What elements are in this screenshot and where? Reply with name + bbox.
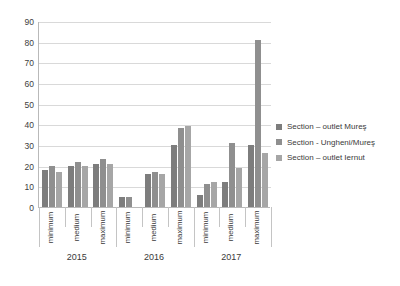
legend-label: Section – outlet Iernut (287, 153, 365, 162)
bar (159, 174, 165, 207)
bar (152, 172, 158, 207)
y-axis-tick-label: 30 (8, 142, 34, 151)
bar (68, 166, 74, 207)
y-axis-tick-label: 50 (8, 101, 34, 110)
bar (222, 182, 228, 207)
category-labels: minimummediummaximumminimummediummaximum… (38, 208, 270, 248)
bar (211, 182, 217, 207)
bar (49, 166, 55, 207)
bar (204, 184, 210, 207)
bar-chart: 0102030405060708090 minimummediummaximum… (0, 0, 400, 286)
bar-group (194, 21, 220, 207)
y-axis-tick-label: 80 (8, 39, 34, 48)
bar-group (168, 21, 194, 207)
legend-item[interactable]: Section – outlet Mureş (276, 122, 398, 131)
legend-swatch-icon (276, 155, 282, 161)
y-axis-tick-label: 10 (8, 183, 34, 192)
bar-group (65, 21, 91, 207)
bar (93, 164, 99, 207)
bar (107, 164, 113, 207)
bar (126, 197, 132, 207)
bar-group (219, 21, 245, 207)
group-label-2016: 2016 (115, 250, 192, 264)
bar-group (91, 21, 117, 207)
bar (178, 128, 184, 207)
legend-label: Section - Ungheni/Mureş (287, 138, 375, 147)
legend-swatch-icon (276, 124, 282, 130)
y-axis-tick-label: 70 (8, 59, 34, 68)
bar-group (142, 21, 168, 207)
bar (262, 153, 268, 207)
y-axis-tick-label: 90 (8, 18, 34, 27)
bar (248, 145, 254, 207)
bar (119, 197, 125, 207)
bar (75, 162, 81, 207)
group-label-2017: 2017 (193, 250, 270, 264)
category-label: maximum (237, 208, 277, 248)
bar (197, 195, 203, 207)
legend-item[interactable]: Section - Ungheni/Mureş (276, 138, 398, 147)
bar-group (39, 21, 65, 207)
bar (171, 145, 177, 207)
bar-group (116, 21, 142, 207)
group-labels: 201520162017 (38, 250, 270, 266)
bar-groups (39, 21, 271, 207)
legend-label: Section – outlet Mureş (287, 122, 367, 131)
chart-legend: Section – outlet MureşSection - Ungheni/… (276, 122, 398, 169)
bar-group (245, 21, 271, 207)
bar (82, 166, 88, 207)
bar (185, 126, 191, 207)
y-axis-tick-label: 40 (8, 121, 34, 130)
bar (229, 143, 235, 207)
group-label-2015: 2015 (38, 250, 115, 264)
bar (100, 159, 106, 207)
y-axis-tick-label: 60 (8, 80, 34, 89)
bar (42, 170, 48, 207)
legend-item[interactable]: Section – outlet Iernut (276, 153, 398, 162)
bar (255, 40, 261, 207)
legend-swatch-icon (276, 139, 282, 145)
bar (56, 172, 62, 207)
bar (236, 168, 242, 207)
plot-area (38, 22, 270, 208)
y-axis-tick-label: 20 (8, 163, 34, 172)
bar (145, 174, 151, 207)
